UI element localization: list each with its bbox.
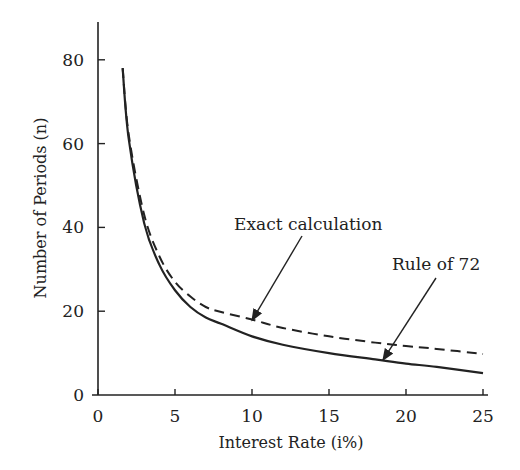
y-tick-label: 0 [73, 385, 84, 405]
x-tick-label: 25 [472, 406, 494, 426]
y-axis-label: Number of Periods (n) [31, 118, 50, 299]
exact-calculation-line [123, 68, 483, 354]
x-tick-label: 15 [318, 406, 340, 426]
x-tick-label: 0 [93, 406, 104, 426]
y-tick-label: 60 [62, 134, 84, 154]
x-tick-label: 5 [170, 406, 181, 426]
y-tick-label: 80 [62, 50, 84, 70]
x-tick-label: 20 [395, 406, 417, 426]
arrow-exact-calculation [252, 236, 302, 320]
y-tick-label: 40 [62, 217, 84, 237]
y-tick-label: 20 [62, 301, 84, 321]
annotation-exact-calculation: Exact calculation [234, 214, 383, 234]
chart: 020406080 0510152025 Number of Periods (… [0, 0, 520, 470]
annotation-rule-of-72: Rule of 72 [392, 254, 480, 274]
x-axis-label: Interest Rate (i%) [218, 433, 363, 452]
x-tick-label: 10 [241, 406, 263, 426]
